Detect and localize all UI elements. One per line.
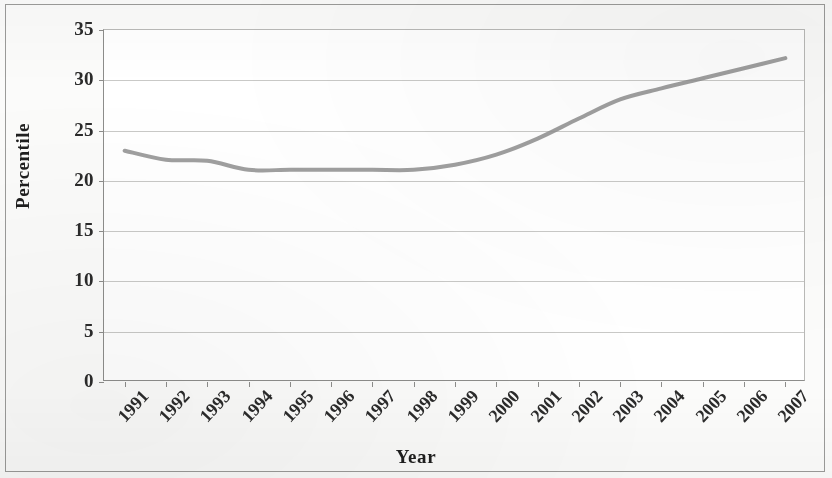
x-tick-mark-1993 [207, 382, 208, 387]
y-tick-label-30: 30 [58, 68, 94, 90]
plot-area [103, 29, 805, 381]
x-axis-title: Year [0, 446, 832, 468]
x-tick-mark-2001 [538, 382, 539, 387]
x-tick-mark-1994 [249, 382, 250, 387]
y-tick-mark-0 [99, 382, 104, 383]
x-tick-mark-2000 [496, 382, 497, 387]
x-tick-mark-2003 [620, 382, 621, 387]
line-series-percentile [125, 58, 786, 170]
x-tick-mark-2004 [661, 382, 662, 387]
x-tick-mark-1995 [290, 382, 291, 387]
y-tick-label-25: 25 [58, 119, 94, 141]
chart-figure: Percentile 05101520253035 19911992199319… [0, 0, 832, 478]
x-tick-mark-1997 [372, 382, 373, 387]
y-tick-label-20: 20 [58, 169, 94, 191]
y-tick-label-0: 0 [58, 370, 94, 392]
x-tick-mark-2005 [703, 382, 704, 387]
x-tick-mark-1996 [331, 382, 332, 387]
y-tick-label-5: 5 [58, 320, 94, 342]
x-tick-mark-2002 [579, 382, 580, 387]
x-tick-mark-1999 [455, 382, 456, 387]
y-axis-title: Percentile [12, 81, 34, 251]
y-tick-label-15: 15 [58, 219, 94, 241]
y-tick-label-35: 35 [58, 18, 94, 40]
x-tick-mark-2006 [744, 382, 745, 387]
y-tick-label-10: 10 [58, 269, 94, 291]
x-tick-mark-2007 [785, 382, 786, 387]
x-tick-mark-1991 [125, 382, 126, 387]
series-layer [104, 30, 806, 382]
x-tick-mark-1992 [166, 382, 167, 387]
x-tick-mark-1998 [414, 382, 415, 387]
